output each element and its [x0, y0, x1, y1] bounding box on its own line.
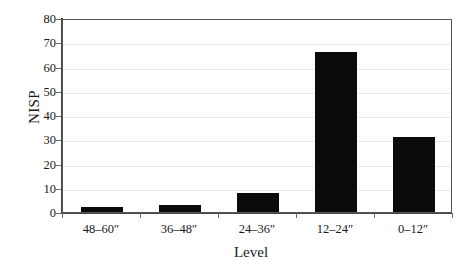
y-tick-mark	[56, 68, 61, 69]
y-tick-mark	[56, 189, 61, 190]
y-tick-label-wrap: 50	[10, 86, 56, 98]
y-tick-label-wrap: 10	[10, 183, 56, 195]
bar	[237, 193, 280, 212]
y-tick-label: 40	[16, 110, 56, 122]
x-tick-label: 12–24″	[296, 222, 374, 236]
y-tick-label: 10	[16, 183, 56, 195]
y-tick-mark	[56, 19, 61, 20]
y-tick-mark	[56, 213, 61, 214]
x-tick-label: 0–12″	[374, 222, 452, 236]
y-tick-label-wrap: 20	[10, 159, 56, 171]
y-tick-mark	[56, 140, 61, 141]
gridline	[63, 93, 451, 94]
x-tick-mark	[62, 213, 63, 218]
y-tick-label: 30	[16, 134, 56, 146]
y-tick-mark	[56, 92, 61, 93]
y-tick-mark	[56, 165, 61, 166]
bar	[159, 205, 202, 212]
y-tick-label-wrap: 0	[10, 207, 56, 219]
y-tick-mark	[56, 43, 61, 44]
y-tick-label-wrap: 60	[10, 62, 56, 74]
bar	[81, 207, 124, 212]
y-tick-mark	[56, 116, 61, 117]
bar-chart-figure: NISP 01020304050607080 48–60″36–48″24–36…	[0, 0, 471, 266]
y-tick-label-wrap: 40	[10, 110, 56, 122]
y-tick-label: 20	[16, 159, 56, 171]
y-tick-label: 80	[16, 13, 56, 25]
gridline	[63, 117, 451, 118]
x-tick-mark	[296, 213, 297, 218]
bar	[393, 137, 436, 212]
y-tick-label: 60	[16, 62, 56, 74]
x-tick-mark	[218, 213, 219, 218]
x-tick-mark	[374, 213, 375, 218]
x-axis-title: Level	[36, 243, 466, 261]
x-tick-mark	[140, 213, 141, 218]
y-tick-label-wrap: 80	[10, 13, 56, 25]
y-tick-label: 0	[16, 207, 56, 219]
gridline	[63, 69, 451, 70]
x-tick-mark	[452, 213, 453, 218]
gridline	[63, 44, 451, 45]
y-tick-label: 70	[16, 37, 56, 49]
bar	[315, 52, 358, 212]
x-tick-label: 24–36″	[218, 222, 296, 236]
y-tick-label-wrap: 30	[10, 134, 56, 146]
x-tick-label: 48–60″	[62, 222, 140, 236]
plot-area	[62, 19, 452, 213]
y-tick-label: 50	[16, 86, 56, 98]
y-tick-label-wrap: 70	[10, 37, 56, 49]
x-tick-label: 36–48″	[140, 222, 218, 236]
